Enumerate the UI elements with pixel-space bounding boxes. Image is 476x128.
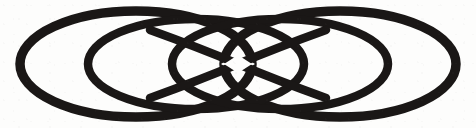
knot-figure-canvas: Interlaced double-loop knot ornament Sym…	[0, 0, 476, 128]
knot-ornament-svg: Interlaced double-loop knot ornament Sym…	[0, 0, 476, 128]
